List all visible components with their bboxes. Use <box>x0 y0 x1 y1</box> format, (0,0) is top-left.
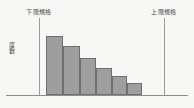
histogram-bar <box>80 58 96 95</box>
histogram-bar <box>112 76 127 95</box>
histogram-bar <box>63 46 80 95</box>
x-axis-baseline <box>6 95 188 96</box>
histogram-bar <box>46 36 63 95</box>
histogram-bar <box>127 83 142 95</box>
histogram-chart: 下限規格 上限規格 度數 <box>0 0 194 108</box>
histogram-bar <box>96 68 112 95</box>
histogram-bars <box>0 0 194 108</box>
